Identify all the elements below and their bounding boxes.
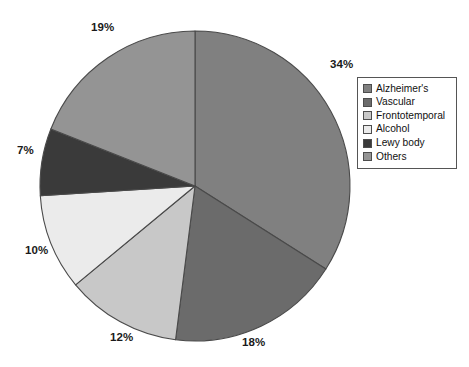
legend-swatch-icon	[363, 84, 372, 93]
pie-label-vascular: 18%	[242, 336, 265, 348]
legend-item-label: Alcohol	[376, 124, 409, 134]
pie-label-frontotemporal: 12%	[110, 331, 133, 343]
pie-slices-group	[40, 31, 350, 341]
legend-item-label: Vascular	[376, 97, 415, 107]
legend-item-label: Frontotemporal	[376, 111, 445, 121]
pie-label-alcohol: 10%	[25, 244, 48, 256]
legend-item-frontotemporal[interactable]: Frontotemporal	[363, 109, 452, 123]
pie-chart	[0, 0, 469, 367]
pie-label-others: 19%	[91, 21, 114, 33]
legend-item-alcohol[interactable]: Alcohol	[363, 123, 452, 137]
legend-item-others[interactable]: Others	[363, 150, 452, 164]
pie-label-lewy-body: 7%	[17, 144, 34, 156]
legend-swatch-icon	[363, 111, 372, 120]
legend-item-vascular[interactable]: Vascular	[363, 96, 452, 110]
legend-swatch-icon	[363, 125, 372, 134]
chart-page: 34%18%12%10%7%19% Alzheimer'sVascularFro…	[0, 0, 469, 367]
legend-item-label: Lewy body	[376, 138, 425, 148]
legend-item-label: Alzheimer's	[376, 84, 428, 94]
legend-item-alzheimer-s[interactable]: Alzheimer's	[363, 82, 452, 96]
pie-label-alzheimer-s: 34%	[330, 58, 353, 70]
legend-swatch-icon	[363, 98, 372, 107]
legend-swatch-icon	[363, 152, 372, 161]
chart-legend: Alzheimer'sVascularFrontotemporalAlcohol…	[357, 77, 457, 169]
legend-item-label: Others	[376, 152, 407, 162]
legend-item-lewy-body[interactable]: Lewy body	[363, 136, 452, 150]
legend-swatch-icon	[363, 139, 372, 148]
